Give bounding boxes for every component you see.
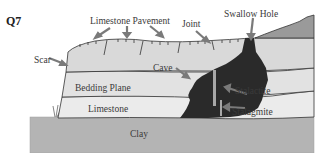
label-limestone-pavement: Limestone Pavement: [90, 16, 170, 26]
stalactite-column: [213, 70, 216, 106]
label-limestone: Limestone: [88, 104, 128, 114]
limestone-diagram: Q7 Limestone Pavement Joint Swallow Hole…: [0, 0, 325, 153]
label-joint: Joint: [182, 19, 201, 29]
label-clay: Clay: [130, 129, 148, 139]
label-scar: Scar: [34, 55, 52, 65]
stalagmite-column: [220, 100, 222, 116]
label-stalagmite: Stalagmite: [232, 107, 273, 117]
clay-layer: [30, 117, 314, 153]
label-swallow-hole: Swallow Hole: [224, 9, 278, 19]
label-stalactite: Stalactite: [235, 86, 270, 96]
label-cave: Cave: [153, 63, 173, 73]
question-number: Q7: [6, 14, 21, 28]
label-bedding-plane: Bedding Plane: [75, 83, 131, 93]
